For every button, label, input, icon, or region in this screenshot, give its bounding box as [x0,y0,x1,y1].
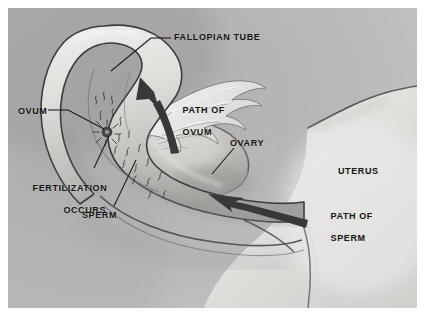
label-path-of-ovum-line2: OVUM [183,127,212,137]
label-path-of-sperm-line1: PATH OF [331,211,373,221]
label-path-of-sperm-line2: SPERM [331,233,366,243]
label-sperm: SPERM [82,210,117,221]
label-uterus: UTERUS [338,166,379,177]
label-path-of-sperm: PATH OF SPERM [312,200,373,255]
label-path-of-ovum-line1: PATH OF [183,105,225,115]
label-ovum: OVUM [18,106,47,117]
anatomical-figure: FALLOPIAN TUBE OVUM FERTILIZATION OCCURS… [0,0,425,323]
overall-grain [8,8,417,308]
label-ovary: OVARY [230,138,264,149]
illustration-plate: FALLOPIAN TUBE OVUM FERTILIZATION OCCURS… [8,8,417,308]
label-fallopian-tube: FALLOPIAN TUBE [174,32,260,43]
pencil-illustration [8,8,417,308]
label-path-of-ovum: PATH OF OVUM [164,94,225,149]
label-fertilization-line1: FERTILIZATION [33,183,108,193]
